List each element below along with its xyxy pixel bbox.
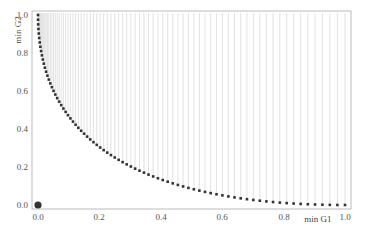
vertical-lines bbox=[38, 13, 345, 205]
front-point bbox=[239, 197, 242, 200]
front-point bbox=[329, 204, 332, 207]
front-point bbox=[336, 204, 339, 207]
y-axis-label: min G2 bbox=[13, 16, 23, 43]
front-point bbox=[110, 154, 113, 157]
x-tick: 0.6 bbox=[216, 212, 228, 222]
front-point bbox=[246, 198, 249, 201]
pareto-front-chart: 0.0 0.2 0.4 0.6 0.8 1.0 0.0 0.2 0.4 0.6 … bbox=[0, 0, 375, 235]
front-point bbox=[56, 97, 59, 100]
front-point bbox=[69, 117, 72, 120]
x-tick: 0.8 bbox=[278, 212, 290, 222]
plot-frame bbox=[32, 11, 351, 209]
front-point bbox=[39, 45, 42, 48]
x-tick: 0.2 bbox=[93, 212, 104, 222]
front-point bbox=[321, 203, 324, 206]
front-point bbox=[193, 188, 196, 191]
front-point bbox=[157, 177, 160, 180]
front-point bbox=[92, 141, 95, 144]
front-point bbox=[215, 193, 218, 196]
front-point bbox=[43, 62, 46, 65]
front-point bbox=[37, 18, 40, 21]
front-point bbox=[233, 196, 236, 199]
front-point bbox=[37, 32, 40, 35]
front-point bbox=[58, 100, 61, 103]
front-point bbox=[80, 129, 83, 132]
front-point bbox=[51, 86, 54, 89]
front-point bbox=[38, 41, 41, 44]
front-point bbox=[83, 132, 86, 135]
front-point bbox=[62, 107, 65, 110]
x-axis-ticks: 0.0 0.2 0.4 0.6 0.8 1.0 bbox=[32, 212, 351, 222]
front-point bbox=[37, 28, 40, 31]
front-point bbox=[47, 78, 50, 81]
front-point bbox=[252, 199, 255, 202]
front-point bbox=[41, 58, 44, 61]
front-point bbox=[198, 189, 201, 192]
front-point bbox=[152, 175, 155, 178]
front-point bbox=[204, 191, 207, 194]
front-point bbox=[292, 202, 295, 205]
y-tick: 0.8 bbox=[17, 48, 29, 58]
front-point bbox=[89, 138, 92, 141]
y-tick: 0.2 bbox=[17, 162, 28, 172]
front-point bbox=[147, 173, 150, 176]
front-point bbox=[64, 111, 67, 114]
front-point bbox=[49, 82, 52, 85]
front-point bbox=[41, 54, 44, 57]
front-point bbox=[72, 120, 75, 123]
front-point bbox=[121, 161, 124, 164]
front-point bbox=[60, 104, 63, 107]
front-point bbox=[299, 203, 302, 206]
front-point bbox=[307, 203, 310, 206]
front-point bbox=[272, 201, 275, 204]
front-point bbox=[259, 199, 262, 202]
x-tick: 1.0 bbox=[339, 212, 351, 222]
front-point bbox=[227, 195, 230, 198]
front-point bbox=[86, 135, 89, 138]
front-point bbox=[221, 194, 224, 197]
front-point bbox=[265, 200, 268, 203]
front-point bbox=[113, 156, 116, 159]
front-point bbox=[54, 93, 57, 96]
front-points bbox=[37, 14, 347, 207]
front-point bbox=[166, 180, 169, 183]
x-tick: 0.4 bbox=[155, 212, 167, 222]
front-point bbox=[344, 204, 347, 207]
front-point bbox=[279, 201, 282, 204]
y-tick: 0.4 bbox=[17, 124, 29, 134]
y-tick: 0.6 bbox=[17, 86, 29, 96]
front-point bbox=[99, 146, 102, 149]
front-point bbox=[106, 151, 109, 154]
front-point bbox=[117, 159, 120, 162]
front-point bbox=[37, 14, 40, 17]
front-point bbox=[314, 203, 317, 206]
highlight-point bbox=[34, 201, 41, 208]
front-point bbox=[138, 169, 141, 172]
front-point bbox=[74, 123, 77, 126]
front-point bbox=[285, 202, 288, 205]
y-tick: 0.0 bbox=[17, 200, 29, 210]
front-point bbox=[52, 90, 55, 93]
front-point bbox=[40, 50, 43, 53]
front-point bbox=[77, 126, 80, 129]
front-point bbox=[130, 165, 133, 168]
front-point bbox=[44, 66, 47, 69]
front-point bbox=[134, 167, 137, 170]
front-point bbox=[46, 74, 49, 77]
front-point bbox=[161, 179, 164, 182]
x-axis-label: min G1 bbox=[304, 214, 331, 224]
front-point bbox=[143, 171, 146, 174]
front-point bbox=[37, 23, 40, 26]
front-point bbox=[95, 144, 98, 147]
front-point bbox=[182, 185, 185, 188]
front-point bbox=[171, 182, 174, 185]
x-tick: 0.0 bbox=[32, 212, 44, 222]
front-point bbox=[177, 184, 180, 187]
front-point bbox=[209, 192, 212, 195]
front-point bbox=[38, 37, 41, 40]
front-point bbox=[187, 187, 190, 190]
front-point bbox=[67, 114, 70, 117]
front-point bbox=[45, 70, 48, 73]
front-point bbox=[125, 163, 128, 166]
front-point bbox=[102, 149, 105, 152]
